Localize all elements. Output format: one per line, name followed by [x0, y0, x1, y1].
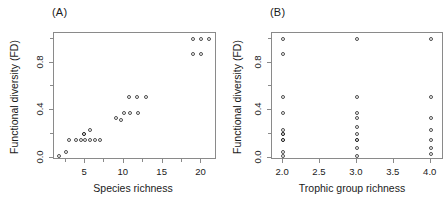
- data-point: [74, 138, 78, 142]
- data-point: [355, 95, 359, 99]
- panel-b: (B) Functional diversity (FD) Trophic gr…: [224, 0, 448, 207]
- y-axis-tick: [49, 109, 53, 110]
- y-axis-tick-label: 0.0: [252, 150, 263, 163]
- data-point: [281, 52, 285, 56]
- data-point: [281, 154, 285, 158]
- panel-a-plot-area: [54, 33, 215, 158]
- panel-b-x-axis-title: Trophic group richness: [299, 182, 405, 194]
- x-axis-tick: [123, 159, 124, 163]
- data-point: [88, 128, 92, 132]
- y-axis-tick: [267, 157, 271, 158]
- x-axis-tick-label: 10: [118, 166, 129, 177]
- x-axis-tick: [393, 159, 394, 163]
- data-point: [88, 138, 92, 142]
- y-axis-tick: [267, 109, 271, 110]
- x-axis-tick-label: 2.0: [275, 166, 288, 177]
- y-axis-minor-tick: [50, 85, 53, 86]
- data-point: [355, 125, 359, 129]
- data-point: [355, 37, 359, 41]
- data-point: [127, 95, 131, 99]
- panel-b-plot-area: [272, 33, 442, 158]
- data-point: [429, 152, 433, 156]
- x-axis-tick: [162, 159, 163, 163]
- data-point: [83, 138, 87, 142]
- data-point: [191, 37, 195, 41]
- figure-container: (A) Functional diversity (FD) Species ri…: [0, 0, 448, 207]
- data-point: [135, 95, 139, 99]
- data-point: [355, 111, 359, 115]
- x-axis-tick-label: 2.5: [312, 166, 325, 177]
- data-point: [136, 111, 140, 115]
- x-axis-tick: [84, 159, 85, 163]
- x-axis-tick-label: 3.5: [386, 166, 399, 177]
- x-axis-tick: [356, 159, 357, 163]
- data-point: [122, 111, 126, 115]
- data-point: [429, 95, 433, 99]
- panel-a-plot-frame: [53, 32, 216, 159]
- panel-a: (A) Functional diversity (FD) Species ri…: [0, 0, 224, 207]
- y-axis-tick-label: 0.4: [34, 103, 45, 116]
- data-point: [64, 150, 68, 154]
- data-point: [82, 132, 86, 136]
- y-axis-tick-label: 0.4: [252, 103, 263, 116]
- data-point: [281, 150, 285, 154]
- x-axis-tick-label: 4.0: [423, 166, 436, 177]
- x-axis-tick-label: 20: [195, 166, 206, 177]
- data-point: [355, 116, 359, 120]
- data-point: [67, 138, 71, 142]
- panel-b-y-axis-title: Functional diversity (FD): [231, 40, 243, 154]
- y-axis-tick-label: 0.8: [252, 55, 263, 68]
- data-point: [281, 111, 285, 115]
- data-point: [429, 128, 433, 132]
- x-axis-tick: [200, 159, 201, 163]
- data-point: [57, 154, 61, 158]
- data-point: [199, 52, 203, 56]
- data-point: [429, 138, 433, 142]
- y-axis-minor-tick: [50, 38, 53, 39]
- y-axis-tick-label: 0.8: [34, 55, 45, 68]
- data-point: [144, 95, 148, 99]
- y-axis-tick-label: 0.0: [34, 150, 45, 163]
- data-point: [429, 37, 433, 41]
- data-point: [429, 116, 433, 120]
- x-axis-tick: [430, 159, 431, 163]
- x-axis-tick-label: 5: [81, 166, 86, 177]
- data-point: [355, 138, 359, 142]
- data-point: [207, 37, 211, 41]
- data-point: [191, 52, 195, 56]
- x-axis-minor-tick: [103, 159, 104, 162]
- data-point: [355, 154, 359, 158]
- data-point: [199, 37, 203, 41]
- y-axis-minor-tick: [268, 85, 271, 86]
- x-axis-minor-tick: [142, 159, 143, 162]
- data-point: [355, 146, 359, 150]
- data-point: [119, 118, 123, 122]
- data-point: [281, 138, 285, 142]
- data-point: [93, 138, 97, 142]
- data-point: [281, 132, 285, 136]
- y-axis-tick: [267, 62, 271, 63]
- y-axis-minor-tick: [268, 133, 271, 134]
- data-point: [114, 116, 118, 120]
- panel-a-x-axis-title: Species richness: [93, 182, 172, 194]
- x-axis-tick-label: 15: [156, 166, 167, 177]
- panel-a-y-axis-title: Functional diversity (FD): [8, 40, 20, 154]
- data-point: [355, 132, 359, 136]
- data-point: [281, 95, 285, 99]
- x-axis-minor-tick: [181, 159, 182, 162]
- panel-a-label: (A): [52, 6, 67, 18]
- panel-b-plot-frame: [271, 32, 443, 159]
- x-axis-minor-tick: [65, 159, 66, 162]
- y-axis-tick: [49, 62, 53, 63]
- x-axis-tick: [319, 159, 320, 163]
- y-axis-minor-tick: [268, 38, 271, 39]
- x-axis-tick-label: 3.0: [349, 166, 362, 177]
- y-axis-tick: [49, 157, 53, 158]
- x-axis-tick: [282, 159, 283, 163]
- y-axis-minor-tick: [50, 133, 53, 134]
- data-point: [128, 111, 132, 115]
- data-point: [281, 37, 285, 41]
- panel-b-label: (B): [270, 6, 285, 18]
- data-point: [429, 146, 433, 150]
- data-point: [98, 138, 102, 142]
